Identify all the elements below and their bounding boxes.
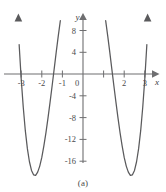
x-tick-label-2: 2 <box>122 78 126 88</box>
y-tick-label--16: -16 <box>65 156 76 166</box>
curve-left-arrow-icon <box>15 14 23 22</box>
x-tick-label-3: 3 <box>143 78 147 88</box>
y-tick-label-8: 8 <box>72 26 76 36</box>
y-tick-label--8: -8 <box>69 113 76 123</box>
y-tick-label--12: -12 <box>65 134 76 144</box>
x-axis-label: x <box>154 77 159 87</box>
y-tick-label--4: -4 <box>69 91 77 101</box>
x-tick-label--2: -2 <box>38 78 45 88</box>
figure-container: -3 -2 -1 2 3 0 8 4 -4 -8 -12 -16 y x (a) <box>0 0 166 192</box>
y-tick-label-4: 4 <box>72 47 77 57</box>
y-axis-arrow-icon <box>79 13 87 20</box>
origin-label: 0 <box>75 78 79 88</box>
x-tick-label--3: -3 <box>18 78 25 88</box>
curve-right-arrow-icon <box>144 14 152 22</box>
graph-canvas: -3 -2 -1 2 3 0 8 4 -4 -8 -12 -16 y x <box>0 0 166 192</box>
x-tick-label--1: -1 <box>59 78 66 88</box>
figure-caption: (a) <box>0 178 166 188</box>
y-axis-label: y <box>75 12 80 22</box>
